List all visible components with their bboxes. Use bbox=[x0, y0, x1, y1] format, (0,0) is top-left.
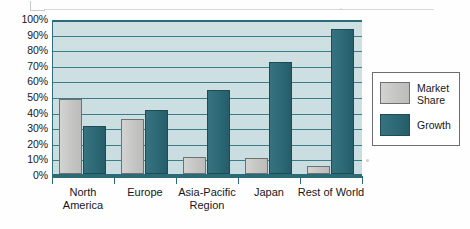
bar-share bbox=[307, 166, 330, 174]
bar-share bbox=[59, 99, 82, 174]
axis-tick bbox=[310, 145, 319, 146]
scan-artifact-rule bbox=[44, 9, 434, 10]
y-axis-tick-label: 70% bbox=[4, 61, 48, 72]
bar-growth bbox=[207, 90, 230, 174]
axis-tick bbox=[310, 82, 319, 83]
chart-figure: 100%90%80%70%60%50%40%30%20%10%0% North … bbox=[0, 0, 470, 229]
axis-tick bbox=[310, 98, 319, 99]
bar-growth bbox=[145, 110, 168, 174]
scan-speck bbox=[340, 8, 342, 10]
x-axis-tick bbox=[52, 176, 53, 184]
axis-tick bbox=[310, 20, 319, 22]
scan-speck bbox=[366, 159, 369, 162]
y-axis-tick-label: 0% bbox=[4, 170, 48, 181]
axis-tick bbox=[310, 51, 319, 52]
legend-swatch-growth bbox=[380, 114, 410, 136]
y-axis-tick-label: 100% bbox=[4, 14, 48, 25]
bar-growth bbox=[83, 126, 106, 174]
bar-share bbox=[121, 119, 144, 174]
x-axis-tick bbox=[300, 176, 301, 184]
y-axis-tick-label: 10% bbox=[4, 154, 48, 165]
x-axis-tick bbox=[362, 176, 363, 184]
axis-tick bbox=[310, 36, 319, 37]
x-axis-category-label: Rest of World bbox=[286, 186, 376, 199]
legend-label-market-share: Market Share bbox=[417, 82, 467, 106]
x-axis-tick bbox=[238, 176, 239, 184]
y-axis-tick-label: 40% bbox=[4, 108, 48, 119]
bar-growth bbox=[331, 29, 354, 174]
x-axis-tick bbox=[114, 176, 115, 184]
chart-legend: Market Share Growth bbox=[372, 72, 460, 146]
y-axis-tick-label: 50% bbox=[4, 92, 48, 103]
axis-tick bbox=[310, 67, 319, 68]
bar-share bbox=[183, 157, 206, 174]
y-axis-tick-label: 80% bbox=[4, 45, 48, 56]
legend-label-growth: Growth bbox=[417, 119, 467, 131]
x-axis-tick bbox=[176, 176, 177, 184]
y-axis-tick-label: 30% bbox=[4, 123, 48, 134]
bar-share bbox=[245, 158, 268, 174]
scan-artifact-mark bbox=[30, 1, 45, 11]
axis-tick bbox=[310, 160, 319, 161]
y-axis-tick-label: 90% bbox=[4, 30, 48, 41]
axis-tick bbox=[310, 129, 319, 130]
y-axis-tick-label: 60% bbox=[4, 76, 48, 87]
x-axis-baseline bbox=[52, 176, 363, 178]
y-axis-tick-label: 20% bbox=[4, 139, 48, 150]
axis-tick bbox=[310, 114, 319, 115]
legend-swatch-market-share bbox=[380, 82, 410, 104]
bar-growth bbox=[269, 62, 292, 174]
